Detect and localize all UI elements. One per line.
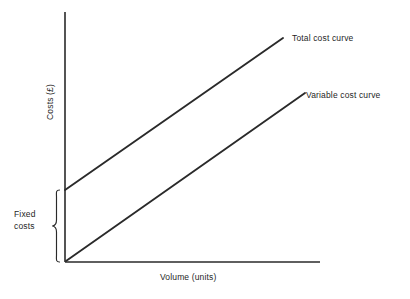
total-cost-curve-label: Total cost curve: [292, 33, 353, 44]
y-axis-label: Costs (£): [45, 84, 56, 120]
fixed-costs-label-line-2: costs: [14, 220, 36, 232]
total-cost-curve: [65, 38, 283, 190]
cost-volume-chart: Total cost curve Variable cost curve Cos…: [0, 0, 410, 299]
fixed-costs-brace: [53, 190, 60, 262]
fixed-costs-label-line-1: Fixed: [14, 208, 36, 220]
x-axis-label: Volume (units): [160, 272, 216, 283]
chart-canvas: [0, 0, 410, 299]
variable-cost-curve-label: Variable cost curve: [306, 90, 381, 101]
fixed-costs-label: Fixed costs: [14, 208, 36, 232]
variable-cost-curve: [66, 93, 305, 261]
